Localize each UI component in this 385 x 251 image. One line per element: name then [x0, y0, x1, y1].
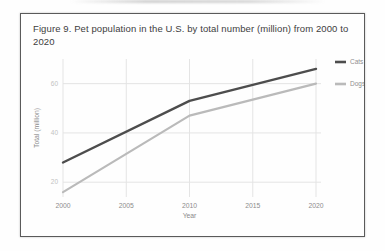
scanned-page: Figure 9. Pet population in the U.S. by …: [0, 0, 385, 251]
x-tick-label: 2015: [245, 202, 260, 209]
scan-artifact: [70, 0, 325, 3]
x-axis-label: Year: [183, 212, 197, 219]
x-tick-label: 2000: [55, 202, 70, 209]
y-tick-label: 20: [51, 178, 59, 185]
cats-legend-label: Cats: [350, 58, 364, 65]
chart: 20406020002005201020152020YearTotal (mil…: [21, 14, 364, 236]
x-tick-label: 2020: [308, 202, 323, 209]
x-tick-label: 2010: [182, 202, 197, 209]
y-tick-label: 40: [51, 129, 59, 136]
y-axis-label: Total (million): [33, 108, 41, 148]
figure-box: Figure 9. Pet population in the U.S. by …: [20, 13, 365, 237]
x-tick-label: 2005: [119, 202, 134, 209]
y-tick-label: 60: [51, 80, 59, 87]
line-chart-svg: 20406020002005201020152020YearTotal (mil…: [21, 14, 364, 236]
dogs-legend-label: Dogs: [350, 80, 364, 88]
